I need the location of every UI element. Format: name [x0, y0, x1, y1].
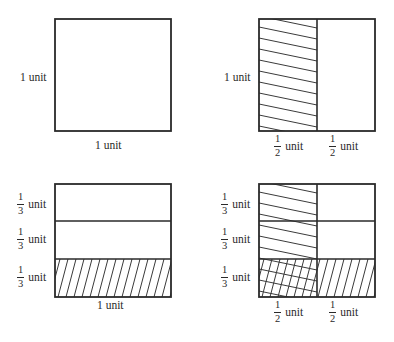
top-right-side-label: 1 unit [224, 72, 251, 84]
bottom-right-side-label-1: 13 unit [221, 192, 250, 216]
top-left-bottom-label: 1 unit [95, 140, 122, 152]
half-shaded-square [259, 16, 375, 138]
bottom-right-side-label-2: 13 unit [221, 227, 250, 251]
fraction: 12 [329, 300, 336, 324]
bottom-right-bottom-label-2: 12 unit [329, 300, 358, 324]
fraction: 13 [17, 192, 24, 216]
fraction: 13 [17, 265, 24, 289]
overlap-square [254, 181, 384, 303]
top-right-bottom-label-1: 12 unit [274, 134, 303, 158]
bottom-right-bottom-label-1: 12 unit [274, 300, 303, 324]
fraction: 13 [221, 227, 228, 251]
fraction: 12 [329, 134, 336, 158]
bottom-left-side-label-1: 13 unit [17, 192, 46, 216]
bottom-right-side-label-3: 13 unit [221, 265, 250, 289]
fraction-diagram [0, 0, 394, 342]
top-left-side-label: 1 unit [20, 72, 47, 84]
top-right-bottom-label-2: 12 unit [329, 134, 358, 158]
fraction: 13 [17, 227, 24, 251]
fraction: 12 [274, 300, 281, 324]
fraction: 12 [274, 134, 281, 158]
unit-square [55, 19, 171, 131]
bottom-left-side-label-2: 13 unit [17, 227, 46, 251]
third-shaded-square [50, 184, 180, 297]
fraction: 13 [221, 265, 228, 289]
fraction: 13 [221, 192, 228, 216]
bottom-left-side-label-3: 13 unit [17, 265, 46, 289]
bottom-left-bottom-label: 1 unit [97, 300, 124, 312]
